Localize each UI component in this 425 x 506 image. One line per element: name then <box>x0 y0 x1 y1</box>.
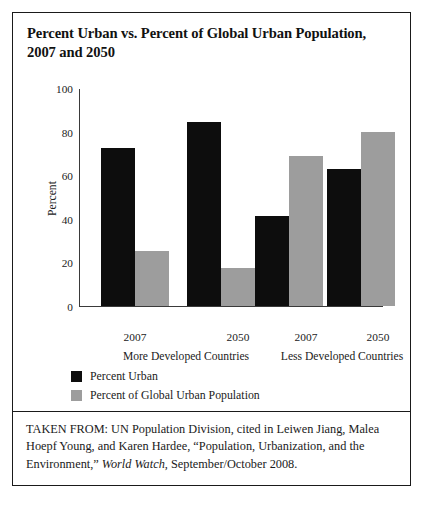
chart-legend: Percent Urban Percent of Global Urban Po… <box>71 368 391 406</box>
legend-label-global-urban-population: Percent of Global Urban Population <box>90 388 260 403</box>
x-axis-line <box>79 306 383 307</box>
source-divider <box>13 411 410 412</box>
y-tick-label: 80 <box>62 127 73 139</box>
legend-label-percent-urban: Percent Urban <box>90 369 158 384</box>
y-tick-label: 20 <box>62 257 73 269</box>
legend-item-percent-urban: Percent Urban <box>71 368 391 385</box>
bar-less-2050-percent-urban <box>327 169 361 305</box>
bar-more-2050-global-urban <box>221 268 255 306</box>
bar-more-2007-global-urban <box>135 251 169 305</box>
bar-chart: Percent 100 80 60 40 20 0 <box>13 75 410 373</box>
y-tick-label: 0 <box>67 301 73 313</box>
x-tick-label-less-2007: 2007 <box>295 331 318 343</box>
y-tick-label: 60 <box>62 170 73 182</box>
group-label-less-developed: Less Developed Countries <box>281 350 403 363</box>
bar-more-2007-percent-urban <box>101 148 135 306</box>
legend-swatch-icon-global-urban-population <box>71 390 82 401</box>
y-axis-title-label: Percent <box>46 181 59 216</box>
legend-swatch-icon-percent-urban <box>71 371 82 382</box>
legend-item-global-urban-population: Percent of Global Urban Population <box>71 387 391 404</box>
source-note-suffix: , September/October 2008. <box>165 457 298 471</box>
source-note-publication: World Watch <box>102 457 165 471</box>
bar-less-2007-global-urban <box>289 156 323 305</box>
x-tick-label-more-2007: 2007 <box>124 331 147 343</box>
group-label-more-developed: More Developed Countries <box>123 350 249 363</box>
bar-more-2050-percent-urban <box>187 122 221 306</box>
x-tick-label-less-2050: 2050 <box>367 331 390 343</box>
x-tick-label-more-2050: 2050 <box>227 331 250 343</box>
bars-layer <box>79 89 383 306</box>
figure-title: Percent Urban vs. Percent of Global Urba… <box>27 24 395 63</box>
y-tick-label: 100 <box>56 83 73 95</box>
figure-frame: Percent Urban vs. Percent of Global Urba… <box>12 12 411 486</box>
y-axis-title: Percent <box>35 89 70 307</box>
source-note: TAKEN FROM: UN Population Division, cite… <box>26 421 398 473</box>
bar-less-2007-percent-urban <box>255 216 289 306</box>
bar-less-2050-global-urban <box>361 132 395 305</box>
y-tick-label: 40 <box>62 214 73 226</box>
plot-area: 100 80 60 40 20 0 2007 2050 2007 2050 <box>79 89 383 307</box>
